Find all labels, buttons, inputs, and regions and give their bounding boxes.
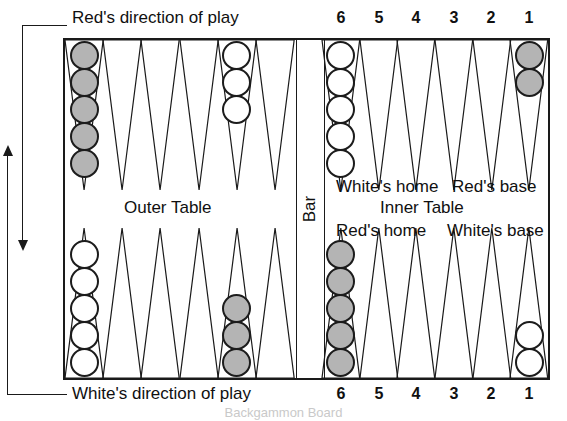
bottom-left-outer-table-p1-checker-4[interactable] bbox=[70, 267, 99, 296]
figure-caption: Backgammon Board bbox=[0, 405, 567, 420]
top-left-outer-table-p5-checker-1[interactable] bbox=[222, 41, 251, 70]
bottom-left-outer-table-p1-checker-2[interactable] bbox=[70, 321, 99, 350]
reds-home-label: Red's home bbox=[336, 222, 426, 239]
bottom-right-inner-table-p6-checker-2[interactable] bbox=[515, 321, 544, 350]
bottom-right-inner-table-p1-checker-5[interactable] bbox=[326, 240, 355, 269]
bottom-left-outer-table-p1-checker-1[interactable] bbox=[70, 348, 99, 377]
whites-home-label: White's home bbox=[336, 178, 438, 195]
whites-base-label: White's base bbox=[447, 222, 544, 239]
bottom-left-outer-table-p5-checker-3[interactable] bbox=[222, 294, 251, 323]
bottom-point-number-2: 2 bbox=[482, 386, 500, 402]
bottom-right-inner-table-p1-checker-4[interactable] bbox=[326, 267, 355, 296]
top-right-inner-table-p1-checker-3[interactable] bbox=[326, 95, 355, 124]
whites-direction-label: White's direction of play bbox=[72, 385, 251, 402]
bottom-right-inner-table-p1-checker-1[interactable] bbox=[326, 348, 355, 377]
inner-table-label: Inner Table bbox=[380, 199, 464, 216]
top-right-inner-table-p1-checker-5[interactable] bbox=[326, 149, 355, 178]
top-left-outer-table-p5-checker-3[interactable] bbox=[222, 95, 251, 124]
bottom-left-outer-table-p5-checker-2[interactable] bbox=[222, 321, 251, 350]
reds-base-label: Red's base bbox=[452, 178, 537, 195]
backgammon-diagram: Red's direction of play 654321 Bar White… bbox=[0, 0, 567, 421]
top-right-inner-table-p1-checker-2[interactable] bbox=[326, 68, 355, 97]
bar-zone: Bar bbox=[296, 38, 324, 380]
bar-label: Bar bbox=[300, 196, 320, 222]
top-left-outer-table-p1-checker-2[interactable] bbox=[70, 68, 99, 97]
outer-table-label: Outer Table bbox=[124, 199, 212, 216]
bottom-right-inner-table-p6-checker-1[interactable] bbox=[515, 348, 544, 377]
bottom-point-number-6: 6 bbox=[332, 386, 350, 402]
top-right-inner-table-p6-checker-1[interactable] bbox=[515, 41, 544, 70]
top-left-outer-table-p5-checker-2[interactable] bbox=[222, 68, 251, 97]
bottom-left-outer-table-p1-checker-3[interactable] bbox=[70, 294, 99, 323]
bottom-right-inner-table-p1-checker-3[interactable] bbox=[326, 294, 355, 323]
bottom-point-number-3: 3 bbox=[445, 386, 463, 402]
top-left-outer-table-p1-checker-4[interactable] bbox=[70, 122, 99, 151]
bottom-point-number-4: 4 bbox=[407, 386, 425, 402]
top-right-inner-table-p6-checker-2[interactable] bbox=[515, 68, 544, 97]
checkers-layer bbox=[0, 0, 567, 421]
bottom-left-outer-table-p5-checker-1[interactable] bbox=[222, 348, 251, 377]
bottom-right-inner-table-p1-checker-2[interactable] bbox=[326, 321, 355, 350]
bottom-point-number-5: 5 bbox=[370, 386, 388, 402]
top-left-outer-table-p1-checker-3[interactable] bbox=[70, 95, 99, 124]
top-right-inner-table-p1-checker-4[interactable] bbox=[326, 122, 355, 151]
bottom-left-outer-table-p1-checker-5[interactable] bbox=[70, 240, 99, 269]
top-left-outer-table-p1-checker-1[interactable] bbox=[70, 41, 99, 70]
top-right-inner-table-p1-checker-1[interactable] bbox=[326, 41, 355, 70]
bottom-point-number-1: 1 bbox=[520, 386, 538, 402]
top-left-outer-table-p1-checker-5[interactable] bbox=[70, 149, 99, 178]
